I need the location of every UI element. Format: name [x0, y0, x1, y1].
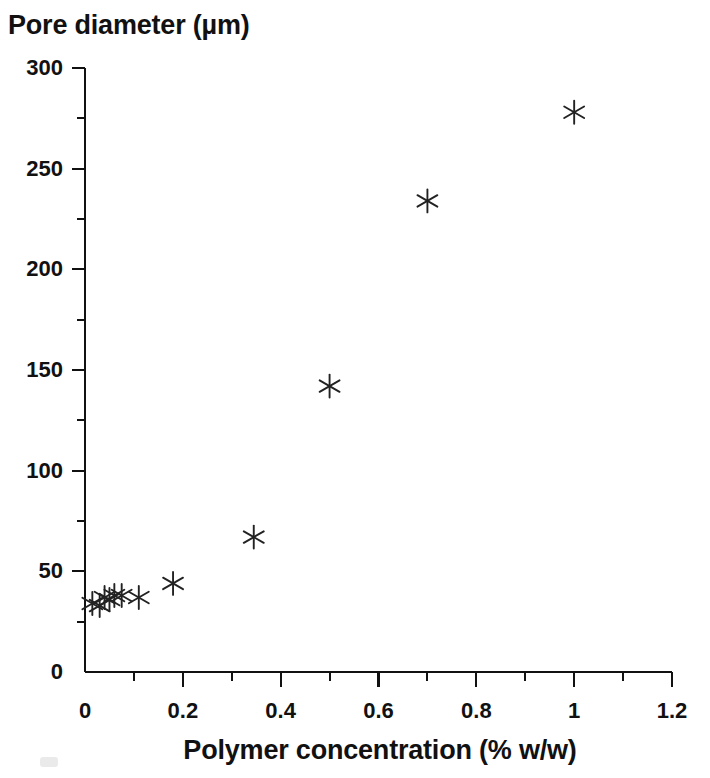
- data-point-marker: [244, 526, 264, 549]
- x-tick-label: 0.2: [168, 698, 199, 724]
- x-tick-label: 0.6: [363, 698, 394, 724]
- y-tick-label: 0: [0, 659, 63, 685]
- y-tick-label: 100: [0, 458, 63, 484]
- data-markers-group: [82, 101, 584, 617]
- scan-artifact: [40, 757, 58, 767]
- y-tick-label: 250: [0, 156, 63, 182]
- x-tick-label: 1.2: [657, 698, 688, 724]
- x-tick-label: 0.8: [461, 698, 492, 724]
- data-point-marker: [320, 375, 340, 398]
- x-tick-label: 1: [568, 698, 580, 724]
- scatter-plot-figure: Pore diameter (µm) 050100150200250300 00…: [0, 0, 710, 778]
- plot-canvas: [0, 0, 710, 778]
- y-tick-label: 300: [0, 55, 63, 81]
- data-point-marker: [417, 189, 437, 212]
- y-tick-label: 50: [0, 558, 63, 584]
- x-tick-label: 0.4: [265, 698, 296, 724]
- y-tick-label: 200: [0, 256, 63, 282]
- y-tick-label: 150: [0, 357, 63, 383]
- data-point-marker: [163, 572, 183, 595]
- ticks-group: [72, 68, 672, 687]
- data-point-marker: [564, 101, 584, 124]
- x-axis-title: Polymer concentration (% w/w): [0, 735, 710, 766]
- x-tick-label: 0: [79, 698, 91, 724]
